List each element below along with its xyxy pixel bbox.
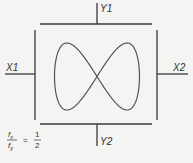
- label-y1: Y1: [100, 3, 112, 14]
- ratio-denominator: fy: [8, 141, 14, 151]
- ratio-numerator: fx: [8, 130, 13, 140]
- label-x2: X2: [172, 62, 186, 73]
- label-x1: X1: [5, 62, 18, 73]
- label-y2: Y2: [100, 136, 113, 147]
- lissajous-diagram: Y1 Y2 X1 X2 fx fy = 1 2: [0, 0, 193, 163]
- ratio-equals: =: [23, 136, 28, 145]
- ratio-value-denominator: 2: [35, 141, 40, 150]
- ratio-value-numerator: 1: [35, 130, 40, 139]
- lissajous-curve: [55, 43, 140, 110]
- frequency-ratio: fx fy = 1 2: [7, 130, 41, 151]
